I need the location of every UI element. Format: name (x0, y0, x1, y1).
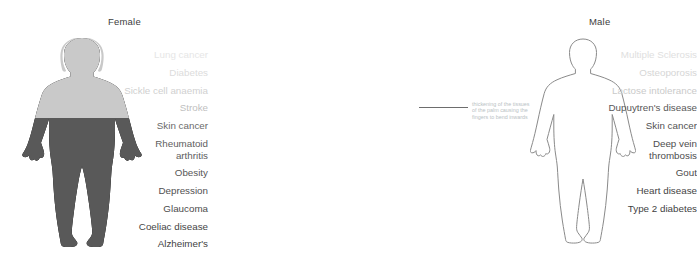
condition-label: Alzheimer's (18, 238, 208, 250)
condition-label: Osteoporosis (545, 67, 697, 79)
condition-label: Deep veinthrombosis (545, 138, 697, 161)
condition-label: Depression (18, 185, 208, 197)
condition-label-line: arthritis (18, 150, 208, 162)
condition-label: Heart disease (545, 185, 697, 197)
panel-title-female: Female (108, 16, 141, 27)
condition-label-line: Rheumatoid (18, 138, 208, 150)
dupuytrens-annotation: thickening of the tissuesof the palm cau… (472, 101, 558, 120)
condition-label: Lung cancer (18, 49, 208, 61)
condition-label-line: Deep vein (545, 138, 697, 150)
condition-label: Lactose intolerance (545, 85, 697, 97)
male-condition-list: Multiple SclerosisOsteoporosisLactose in… (545, 49, 697, 221)
condition-label: Obesity (18, 167, 208, 179)
condition-label: Glaucoma (18, 203, 208, 215)
annotation-leader-line (419, 107, 468, 108)
condition-label: Diabetes (18, 67, 208, 79)
condition-label: Rheumatoidarthritis (18, 138, 208, 161)
condition-label: Skin cancer (545, 120, 697, 132)
condition-label: Skin cancer (18, 120, 208, 132)
condition-label: Gout (545, 167, 697, 179)
panel-female: Female Lung cancerDiabetesSickle cell an… (0, 0, 283, 270)
condition-label-line: thrombosis (545, 150, 697, 162)
condition-label: Multiple Sclerosis (545, 49, 697, 61)
condition-label: Coeliac disease (18, 221, 208, 233)
panel-title-male: Male (589, 16, 610, 27)
annotation-line: fingers to bend inwards (472, 114, 558, 120)
panel-male: Male Multiple SclerosisOsteoporosisLacto… (283, 0, 565, 270)
condition-label: Stroke (18, 102, 208, 114)
condition-label: Type 2 diabetes (545, 203, 697, 215)
female-condition-list: Lung cancerDiabetesSickle cell anaemiaSt… (18, 49, 208, 256)
condition-label: Dupuytren's disease (545, 102, 697, 114)
condition-label: Sickle cell anaemia (18, 85, 208, 97)
